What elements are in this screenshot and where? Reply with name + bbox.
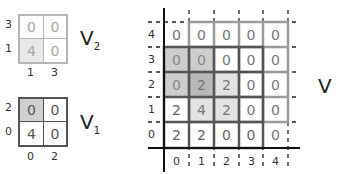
v-y-label: 3	[148, 53, 155, 66]
v-cell: 0	[239, 22, 263, 47]
v-cell: 0	[263, 97, 288, 122]
v-cell: 0	[214, 47, 239, 72]
v-cell: 0	[189, 47, 214, 72]
v-cell: 0	[164, 22, 189, 47]
v-cell: 0	[214, 22, 239, 47]
v-cell: 0	[263, 22, 288, 47]
v-cell: 0	[263, 47, 288, 72]
v-x-label: 4	[272, 155, 279, 168]
v-cell: 2	[214, 97, 239, 122]
v-cell: 0	[263, 72, 288, 97]
v-x-label: 0	[173, 155, 180, 168]
v-y-label: 2	[148, 78, 155, 91]
v-cell: 0	[239, 122, 263, 148]
v-x-label: 3	[248, 155, 255, 168]
v-y-label: 4	[148, 28, 155, 41]
v-cell: 2	[164, 122, 189, 148]
v-cell: 0	[164, 47, 189, 72]
v-cell: 0	[239, 72, 263, 97]
v-cell: 2	[189, 122, 214, 148]
v-cell: 2	[214, 72, 239, 97]
v-cell: 0	[189, 22, 214, 47]
v-y-label: 1	[148, 103, 155, 116]
v-cell: 2	[189, 72, 214, 97]
v-x-label: 2	[223, 155, 230, 168]
v-cell: 0	[263, 122, 288, 148]
v-cell: 0	[239, 97, 263, 122]
v-grid: 0 0 0 0 0 0 0 0 0 0 0 2 2 0 0 2 4 2 0 0 …	[0, 0, 341, 174]
v-title: V	[318, 74, 332, 98]
v-x-label: 1	[198, 155, 205, 168]
v-cell: 2	[164, 97, 189, 122]
v-y-label: 0	[148, 128, 155, 141]
v-cell: 0	[214, 122, 239, 148]
v-cell: 0	[164, 72, 189, 97]
v-cell: 0	[239, 47, 263, 72]
v-cell: 4	[189, 97, 214, 122]
